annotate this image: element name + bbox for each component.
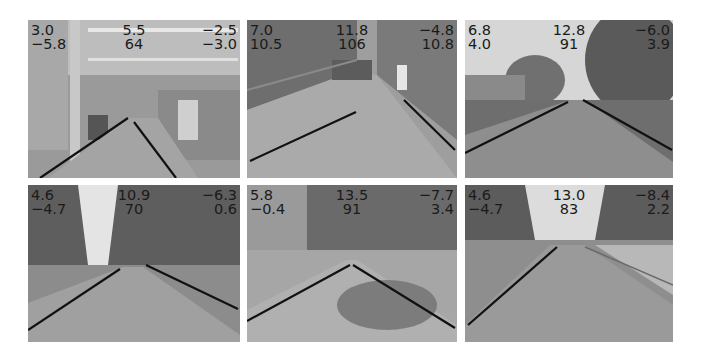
panel-2-bottom-right-value: 10.8 <box>422 37 454 51</box>
figure-panel-6: 4.6 13.0 −8.4 −4.7 83 2.2 <box>465 185 673 342</box>
panel-5-bottom-center-value: 91 <box>247 202 457 216</box>
figure-panel-3: 6.8 12.8 −6.0 4.0 91 3.9 <box>465 20 673 178</box>
panel-1-top-right-value: −2.5 <box>202 23 237 37</box>
figure-panel-5: 5.8 13.5 −7.7 −0.4 91 3.4 <box>247 185 457 342</box>
panel-3-bottom-center-value: 91 <box>465 37 673 51</box>
panel-4-top-right-value: −6.3 <box>202 188 237 202</box>
panel-4-bottom-right-value: 0.6 <box>214 202 237 216</box>
figure-panel-2: 7.0 11.8 −4.8 10.5 106 10.8 <box>247 20 457 178</box>
figure-panel-4: 4.6 10.9 −6.3 −4.7 70 0.6 <box>28 185 240 342</box>
panel-6-top-right-value: −8.4 <box>635 188 670 202</box>
panel-6-bottom-right-value: 2.2 <box>647 202 670 216</box>
panel-6-bottom-center-value: 83 <box>465 202 673 216</box>
panel-2-top-right-value: −4.8 <box>419 23 454 37</box>
panel-3-bottom-right-value: 3.9 <box>647 37 670 51</box>
panel-5-bottom-right-value: 3.4 <box>431 202 454 216</box>
panel-5-top-right-value: −7.7 <box>419 188 454 202</box>
panel-4-bottom-center-value: 70 <box>28 202 240 216</box>
panel-1-bottom-right-value: −3.0 <box>202 37 237 51</box>
figure-panel-1: 3.0 5.5 −2.5 −5.8 64 −3.0 <box>28 20 240 178</box>
panel-3-top-right-value: −6.0 <box>635 23 670 37</box>
